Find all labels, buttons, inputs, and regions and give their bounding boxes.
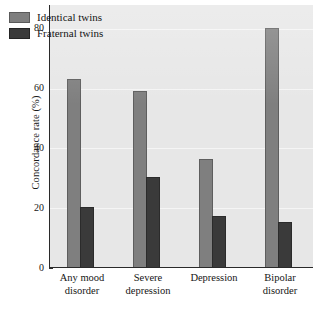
chart-legend: Identical twins Fraternal twins: [9, 11, 103, 43]
bar-identical-1: [133, 91, 147, 267]
bar-fraternal-2: [212, 216, 226, 267]
bar-identical-0: [67, 79, 81, 267]
legend-label-fraternal: Fraternal twins: [37, 28, 103, 39]
x-tick-label: Bipolardisorder: [241, 272, 319, 297]
legend-entry-fraternal-twins: Fraternal twins: [9, 27, 103, 39]
legend-label-identical: Identical twins: [37, 12, 102, 23]
legend-swatch-icon-identical: [9, 12, 30, 23]
bar-fraternal-3: [278, 222, 292, 267]
y-tick-label: 40: [24, 143, 44, 153]
bar-identical-3: [265, 28, 279, 267]
legend-entry-identical-twins: Identical twins: [9, 11, 103, 23]
bar-chart-figure: Concordance rate (%) 020406080 Identical…: [0, 0, 333, 310]
y-axis-tick-labels: 020406080: [22, 0, 44, 310]
bar-identical-2: [199, 159, 213, 267]
plot-area: [49, 5, 313, 268]
y-tick-mark: [49, 268, 53, 269]
y-tick-label: 60: [24, 83, 44, 93]
legend-swatch-icon-fraternal: [9, 28, 30, 39]
bar-fraternal-0: [80, 207, 94, 267]
y-tick-label: 20: [24, 203, 44, 213]
bar-fraternal-1: [146, 177, 160, 267]
y-tick-label: 0: [24, 263, 44, 273]
